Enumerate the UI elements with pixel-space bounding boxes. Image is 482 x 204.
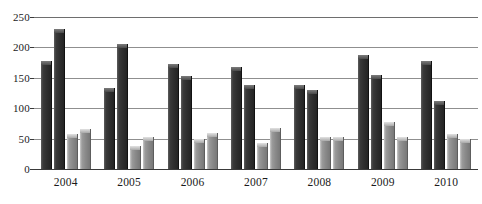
bar <box>143 137 154 169</box>
bar <box>257 143 268 169</box>
x-axis-category-label: 2009 <box>351 176 414 200</box>
y-axis-tick-label: 0 <box>0 164 30 174</box>
bar <box>447 134 458 169</box>
bar <box>41 61 52 169</box>
x-axis-category-label: 2010 <box>415 176 478 200</box>
bar <box>333 137 344 169</box>
bar <box>307 90 318 169</box>
bar <box>384 122 395 169</box>
bar-group <box>224 17 287 169</box>
bar <box>67 134 78 169</box>
y-axis-tick-label: 100 <box>0 103 30 113</box>
bar-group <box>415 17 478 169</box>
x-axis-category-label: 2004 <box>34 176 97 200</box>
bar <box>434 101 445 169</box>
bar <box>371 75 382 169</box>
bar <box>294 85 305 170</box>
bar <box>117 44 128 169</box>
bar <box>397 137 408 169</box>
bar-chart: 050100150200250 200420052006200720082009… <box>0 0 482 204</box>
axis-baseline <box>34 169 478 170</box>
y-axis: 050100150200250 <box>0 0 30 204</box>
bar <box>244 85 255 169</box>
bar <box>421 61 432 169</box>
y-axis-tick-label: 250 <box>0 12 30 22</box>
bar <box>54 29 65 169</box>
x-axis: 2004200520062007200820092010 <box>34 176 478 200</box>
bar-group <box>161 17 224 169</box>
bar-groups <box>34 17 478 169</box>
y-axis-tick-label: 150 <box>0 73 30 83</box>
bar <box>181 76 192 169</box>
bar <box>231 67 242 169</box>
bar <box>207 133 218 169</box>
x-axis-category-label: 2007 <box>224 176 287 200</box>
bar <box>460 139 471 169</box>
bar <box>130 146 141 169</box>
bar <box>358 55 369 169</box>
bar <box>80 129 91 169</box>
bar <box>104 88 115 169</box>
x-axis-category-label: 2008 <box>288 176 351 200</box>
y-axis-tick-label: 50 <box>0 134 30 144</box>
x-axis-category-label: 2006 <box>161 176 224 200</box>
bar-group <box>288 17 351 169</box>
plot-area <box>34 17 478 169</box>
bar-group <box>97 17 160 169</box>
bar <box>194 139 205 169</box>
y-axis-tickmark <box>30 169 34 170</box>
bar <box>320 137 331 169</box>
bar-group <box>34 17 97 169</box>
bar <box>168 64 179 169</box>
x-axis-category-label: 2005 <box>97 176 160 200</box>
bar-group <box>351 17 414 169</box>
y-axis-tick-label: 200 <box>0 42 30 52</box>
bar <box>270 128 281 169</box>
